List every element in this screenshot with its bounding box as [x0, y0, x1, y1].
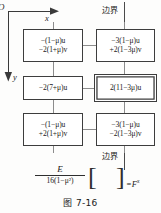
rhs-text: =F: [126, 179, 137, 189]
rhs-subscript: x: [137, 178, 139, 184]
connector-horizontal-top: [83, 45, 96, 46]
fraction-numerator: E: [34, 164, 86, 175]
cell-line: 2(11−3μ)u: [110, 84, 141, 93]
equation-fraction: E 16(1−μ²): [34, 164, 86, 185]
y-axis-label: y: [13, 72, 17, 82]
stencil-cell-bottom-right: −3(1−μ)u −2(1−3μ)v: [96, 113, 155, 146]
cell-line: +2(1−3μ)v: [110, 46, 142, 55]
connector-vertical-right-upper: [124, 62, 125, 74]
y-axis-arrow-icon: [4, 72, 13, 82]
connector-horizontal-bottom: [83, 129, 96, 130]
x-axis-label: x: [45, 13, 49, 23]
fraction-denominator: 16(1−μ²): [34, 176, 86, 186]
stencil-cell-middle-right: 2(11−3μ)u: [94, 74, 157, 102]
boundary-label-bottom: 边界: [102, 150, 118, 161]
equation-right-hand-side: =Fx: [126, 178, 139, 189]
cell-line: −2(7+μ)u: [39, 84, 67, 93]
x-axis-line: [8, 11, 54, 12]
boundary-label-top: 边界: [102, 4, 118, 15]
scaling-equation: E 16(1−μ²) [ ] =Fx: [30, 164, 161, 194]
figure-caption: 图 7-16: [0, 196, 161, 209]
connector-vertical-bottomleft-down: [53, 146, 54, 153]
cell-line: −2(1+μ)v: [39, 46, 67, 55]
bracket-left: [: [88, 166, 97, 188]
bracket-right: ]: [116, 166, 125, 188]
connector-vertical-left-upper: [53, 62, 54, 76]
connector-vertical-bottomright-down: [124, 146, 125, 153]
axis-origin-label: O: [0, 2, 5, 12]
stencil-cell-middle-left: −2(7+μ)u: [23, 76, 83, 100]
x-axis-arrow-icon: [50, 7, 60, 16]
y-axis-line: [8, 11, 9, 74]
connector-vertical-left-lower: [53, 100, 54, 113]
cell-line: +2(1+μ)v: [39, 130, 67, 139]
cell-line: −2(1−3μ)v: [110, 130, 142, 139]
stencil-cell-top-right: −3(1−μ)u +2(1−3μ)v: [96, 29, 155, 62]
figure-stencil-diagram: O x y 边界 边界 −(1−μ)u −2(1+μ)v −3(1−μ)u +2…: [0, 0, 161, 213]
connector-vertical-right-lower: [124, 102, 125, 113]
stencil-cell-top-left: −(1−μ)u −2(1+μ)v: [23, 29, 83, 62]
connector-vertical-topleft-up: [53, 22, 54, 29]
connector-horizontal-middle: [83, 88, 94, 89]
stencil-cell-bottom-left: −(1−μ)u +2(1+μ)v: [23, 113, 83, 146]
connector-vertical-topright-up: [124, 22, 125, 29]
